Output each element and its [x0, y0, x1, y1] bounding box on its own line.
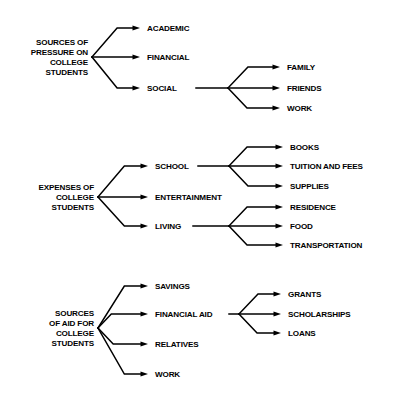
node-label-pressure-0: ACADEMIC	[147, 24, 190, 33]
arrow-icon	[133, 55, 141, 60]
leaf-label-expenses-2-0: RESIDENCE	[290, 203, 337, 212]
branch-connector	[92, 57, 133, 88]
root-label-line: SOURCES OF	[36, 38, 88, 47]
arrow-icon	[276, 145, 284, 150]
sub-branch-connector	[229, 207, 276, 226]
branch-expenses-2: LIVINGRESIDENCEFOODTRANSPORTATION	[98, 197, 363, 250]
arrow-icon	[274, 312, 282, 317]
branch-aid-3: WORK	[98, 328, 180, 379]
arrow-icon	[133, 86, 141, 91]
arrow-icon	[273, 86, 281, 91]
branch-aid-2: RELATIVES	[98, 328, 199, 349]
leaf-label-pressure-2-2: WORK	[287, 104, 312, 113]
sub-branch-connector	[228, 88, 273, 108]
arrow-icon	[273, 106, 281, 111]
arrow-icon	[141, 342, 149, 347]
arrow-icon	[276, 224, 284, 229]
leaf-label-aid-1-0: GRANTS	[288, 290, 322, 299]
branch-expenses-0: SCHOOLBOOKSTUITION AND FEESSUPPLIES	[98, 143, 364, 197]
arrow-icon	[276, 184, 284, 189]
node-label-pressure-2: SOCIAL	[147, 84, 177, 93]
arrow-icon	[141, 284, 149, 289]
arrow-icon	[141, 224, 149, 229]
node-label-expenses-2: LIVING	[155, 222, 181, 231]
sub-branch-connector	[229, 147, 276, 166]
root-label-line: STUDENTS	[46, 68, 89, 77]
node-label-aid-3: WORK	[155, 370, 180, 379]
root-label-line: PRESSURE ON	[31, 48, 89, 57]
branch-connector	[92, 28, 133, 57]
root-label-line: EXPENSES OF	[39, 183, 95, 192]
diagram-expenses: EXPENSES OFCOLLEGESTUDENTSSCHOOLBOOKSTUI…	[39, 143, 364, 250]
arrow-icon	[274, 331, 282, 336]
node-label-expenses-0: SCHOOL	[155, 162, 189, 171]
branch-connector	[98, 328, 141, 344]
leaf-label-pressure-2-1: FRIENDS	[287, 84, 322, 93]
arrow-icon	[141, 312, 149, 317]
root-label-aid: SOURCESOF AID FORCOLLEGESTUDENTS	[49, 309, 95, 347]
sub-branch-connector	[229, 166, 276, 186]
sub-branch-connector	[228, 67, 273, 88]
branch-connector	[98, 197, 141, 226]
sub-branch-connector	[239, 314, 274, 333]
branch-connector	[98, 166, 141, 197]
arrow-icon	[141, 372, 149, 377]
node-label-pressure-1: FINANCIAL	[147, 53, 189, 62]
diagram-group: SOURCES OFPRESSURE ONCOLLEGESTUDENTSACAD…	[31, 24, 364, 379]
root-label-line: COLLEGE	[56, 193, 95, 202]
node-label-aid-2: RELATIVES	[155, 340, 199, 349]
node-label-aid-0: SAVINGS	[155, 282, 191, 291]
root-label-line: SOURCES	[55, 309, 95, 318]
branch-connector	[98, 314, 141, 328]
root-label-line: STUDENTS	[52, 203, 95, 212]
leaf-label-aid-1-2: LOANS	[288, 329, 316, 338]
root-label-line: OF AID FOR	[49, 319, 94, 328]
arrow-icon	[141, 195, 149, 200]
branch-aid-1: FINANCIAL AIDGRANTSSCHOLARSHIPSLOANS	[98, 290, 351, 338]
leaf-label-expenses-0-2: SUPPLIES	[290, 182, 330, 191]
root-label-expenses: EXPENSES OFCOLLEGESTUDENTS	[39, 183, 95, 212]
sub-branch-connector	[239, 294, 274, 314]
node-label-aid-1: FINANCIAL AID	[155, 310, 213, 319]
diagram-pressure: SOURCES OFPRESSURE ONCOLLEGESTUDENTSACAD…	[31, 24, 323, 113]
branch-pressure-1: FINANCIAL	[92, 53, 189, 62]
leaf-label-expenses-2-2: TRANSPORTATION	[290, 241, 363, 250]
sub-branch-connector	[229, 226, 276, 245]
arrow-icon	[141, 164, 149, 169]
leaf-label-expenses-0-0: BOOKS	[290, 143, 320, 152]
arrow-icon	[273, 65, 281, 70]
leaf-label-pressure-2-0: FAMILY	[287, 63, 316, 72]
arrow-icon	[276, 164, 284, 169]
branch-expenses-1: ENTERTAINMENT	[98, 193, 222, 202]
root-label-line: STUDENTS	[52, 339, 95, 348]
branch-pressure-2: SOCIALFAMILYFRIENDSWORK	[92, 57, 322, 113]
arrow-icon	[276, 243, 284, 248]
arrow-icon	[274, 292, 282, 297]
root-label-line: COLLEGE	[50, 58, 89, 67]
root-label-pressure: SOURCES OFPRESSURE ONCOLLEGESTUDENTS	[31, 38, 89, 76]
arrow-icon	[133, 26, 141, 31]
leaf-label-aid-1-1: SCHOLARSHIPS	[288, 310, 351, 319]
arrow-icon	[276, 205, 284, 210]
root-label-line: COLLEGE	[56, 329, 95, 338]
node-label-expenses-1: ENTERTAINMENT	[155, 193, 222, 202]
branch-aid-0: SAVINGS	[98, 282, 191, 328]
concept-tree-diagrams: SOURCES OFPRESSURE ONCOLLEGESTUDENTSACAD…	[0, 0, 401, 395]
diagram-aid: SOURCESOF AID FORCOLLEGESTUDENTSSAVINGSF…	[49, 282, 351, 379]
leaf-label-expenses-0-1: TUITION AND FEES	[290, 162, 364, 171]
leaf-label-expenses-2-1: FOOD	[290, 222, 313, 231]
